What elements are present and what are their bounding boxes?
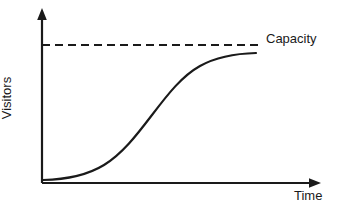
y-axis-label: Visitors [0, 70, 14, 126]
x-axis-arrow-icon [309, 178, 321, 188]
capacity-label: Capacity [266, 32, 317, 46]
y-axis-arrow-icon [37, 8, 47, 20]
visitors-growth-curve [43, 53, 256, 180]
x-axis-label: Time [294, 189, 322, 203]
logistic-growth-figure: Capacity Time Visitors [0, 0, 340, 214]
